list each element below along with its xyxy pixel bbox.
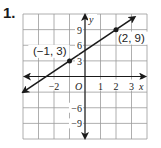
y-tick-label: −6: [71, 103, 82, 114]
y-tick-label: 6: [77, 40, 82, 51]
y-tick-label: 9: [77, 25, 82, 36]
y-tick-label: −9: [71, 118, 82, 129]
point-label: (−1, 3): [33, 45, 67, 57]
x-tick-label: 1: [98, 81, 103, 92]
data-point: [67, 58, 72, 63]
x-tick-label: 3: [129, 81, 134, 92]
coordinate-graph: yxO−2123963−6−9 (−1, 3)(2, 9): [0, 0, 161, 148]
y-axis-label: y: [88, 14, 94, 25]
x-tick-label: −2: [49, 81, 60, 92]
point-label: (2, 9): [118, 32, 145, 44]
x-tick-label: 2: [114, 81, 119, 92]
origin-label: O: [75, 81, 82, 92]
y-tick-label: 3: [77, 56, 82, 67]
x-axis-label: x: [138, 81, 144, 92]
